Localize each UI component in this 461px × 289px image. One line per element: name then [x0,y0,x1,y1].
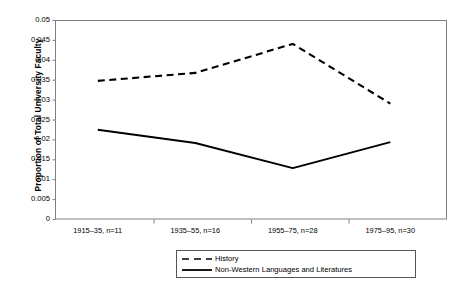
solid-line-swatch [180,265,214,275]
chart-legend: History Non-Western Languages and Litera… [176,250,416,278]
dashed-line-swatch [180,254,214,264]
legend-item-history: History [180,253,412,264]
plot-area [0,0,461,289]
chart-figure: Proportion of Total University Faculty 0… [0,0,461,289]
legend-label-history: History [214,254,239,264]
legend-label-non-western: Non-Western Languages and Literatures [214,265,352,275]
legend-item-non-western: Non-Western Languages and Literatures [180,264,412,275]
plot-frame [56,21,447,220]
plot-border [56,21,447,220]
x-axis-tick-marks [154,220,349,224]
